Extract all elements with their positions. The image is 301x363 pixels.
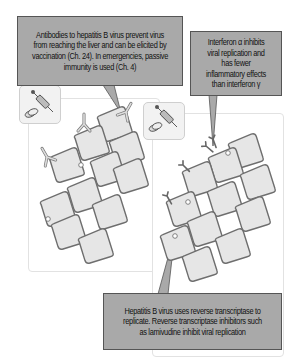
antibodies-callout: Antibodies to hepatitis B virus prevent … [17,16,183,86]
right-liver-cells [159,133,277,284]
interferon-callout: Interferon α inhibits viral replication … [190,31,282,96]
left-pills-icon [24,107,38,118]
reverse-transcriptase-callout: Hepatitis B virus uses reverse transcrip… [103,293,282,350]
right-pills-icon [148,121,162,132]
left-liver-cells [39,106,150,266]
